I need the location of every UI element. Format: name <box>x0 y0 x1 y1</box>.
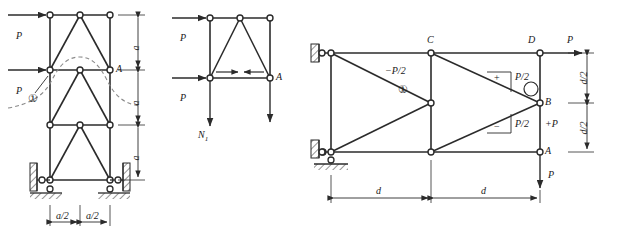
left-dim-a-2: a <box>131 101 141 106</box>
right-joint-label-d: D <box>528 35 535 45</box>
right-joint-label-c: C <box>427 35 434 45</box>
right-force-lower-half-p: P/2 <box>515 119 529 129</box>
left-dim-half-a-1: a/2 <box>56 211 69 221</box>
right-force-axial-plus-p: +P <box>545 119 558 129</box>
middle-fbd-group <box>172 15 273 126</box>
left-dim-a-3: a <box>131 156 141 161</box>
right-dim-half-d-1: d/2 <box>579 72 589 85</box>
middle-force-top-label: P <box>180 33 186 43</box>
left-force-mid-label: P <box>16 86 22 96</box>
right-member-marker: ① <box>398 84 408 95</box>
right-joint-label-a: A <box>545 146 551 156</box>
middle-axial-force-label: N1 <box>198 130 208 143</box>
left-truss-group <box>8 12 145 226</box>
right-sign-minus: − <box>494 122 500 132</box>
middle-force-mid-label: P <box>180 93 186 103</box>
figure-canvas: P P A ① a a a a/2 a/2 P P A N1 C D P B A… <box>0 0 619 245</box>
right-force-upper-half-p: P/2 <box>515 72 529 82</box>
left-force-top-label: P <box>16 31 22 41</box>
right-joint-label-b: B <box>545 97 551 107</box>
left-dim-a-1: a <box>131 46 141 51</box>
right-sign-plus: + <box>494 73 500 83</box>
right-force-bottom-label: P <box>548 170 554 180</box>
right-dim-d-2: d <box>481 186 486 196</box>
right-force-top-label: P <box>567 35 573 45</box>
pin-support-top <box>311 44 319 62</box>
right-dim-half-d-2: d/2 <box>579 122 589 135</box>
left-dim-half-a-2: a/2 <box>86 211 99 221</box>
right-force-negative-half-p: −P/2 <box>385 66 406 76</box>
left-joint-label-a: A <box>116 64 122 74</box>
right-dim-d-1: d <box>376 186 381 196</box>
middle-joint-label-a: A <box>276 72 282 82</box>
left-member-marker: ① <box>28 93 38 104</box>
